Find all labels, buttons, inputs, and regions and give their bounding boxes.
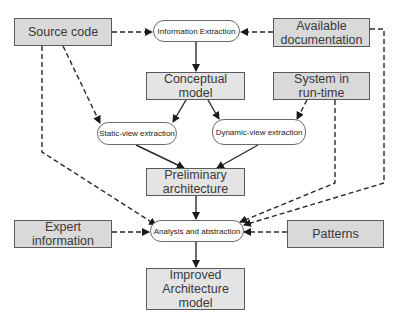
preliminary-architecture-label-1: Preliminary bbox=[163, 168, 228, 182]
available-documentation-label-1: Available bbox=[280, 19, 362, 33]
dynamic-view-extraction-process: Dynamic-view extraction bbox=[212, 119, 306, 145]
conceptual-model-box: Conceptual model bbox=[146, 72, 245, 100]
patterns-label: Patterns bbox=[312, 227, 359, 241]
analysis-abstraction-label: Analysis and abstraction bbox=[154, 227, 241, 236]
improved-architecture-label-3: model bbox=[162, 296, 229, 310]
dynamic-view-extraction-label: Dynamic-view extraction bbox=[216, 128, 303, 137]
available-documentation-label-2: documentation bbox=[280, 33, 362, 47]
source-code-box: Source code bbox=[14, 18, 112, 46]
expert-information-box: Expert information bbox=[14, 220, 112, 248]
edge-static-to-preliminary bbox=[136, 145, 184, 168]
system-runtime-box: System in run-time bbox=[273, 72, 370, 100]
available-documentation-box: Available documentation bbox=[273, 18, 370, 47]
expert-information-label-2: information bbox=[32, 234, 94, 248]
improved-architecture-label-2: Architecture bbox=[162, 282, 229, 296]
edge-source-to-static bbox=[63, 46, 100, 123]
information-extraction-process: Information Extraction bbox=[153, 20, 240, 42]
preliminary-architecture-box: Preliminary architecture bbox=[146, 168, 245, 196]
edge-dynamic-to-preliminary bbox=[217, 145, 258, 168]
improved-architecture-label-1: Improved bbox=[162, 268, 229, 282]
expert-information-label-1: Expert bbox=[32, 220, 94, 234]
analysis-abstraction-process: Analysis and abstraction bbox=[150, 220, 244, 242]
system-runtime-label-1: System in bbox=[294, 72, 349, 86]
edge-conceptual-to-dynamic bbox=[208, 100, 219, 119]
static-view-extraction-process: Static-view extraction bbox=[97, 122, 177, 145]
conceptual-model-label-1: Conceptual bbox=[164, 72, 227, 86]
patterns-box: Patterns bbox=[287, 220, 384, 248]
improved-architecture-model-box: Improved Architecture model bbox=[146, 268, 245, 310]
preliminary-architecture-label-2: architecture bbox=[163, 182, 228, 196]
source-code-label: Source code bbox=[28, 25, 98, 39]
edge-conceptual-to-static bbox=[173, 100, 186, 122]
edge-runtime-to-dynamic bbox=[297, 100, 307, 119]
static-view-extraction-label: Static-view extraction bbox=[99, 129, 175, 138]
conceptual-model-label-2: model bbox=[164, 86, 227, 100]
information-extraction-label: Information Extraction bbox=[158, 27, 236, 36]
system-runtime-label-2: run-time bbox=[294, 86, 349, 100]
